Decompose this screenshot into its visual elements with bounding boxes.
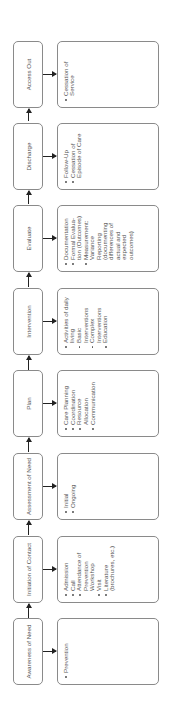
detail-item: Basic Interventions	[76, 292, 89, 348]
stage-label: Intervention	[25, 305, 32, 337]
detail-box-assessment-of-need: Initial Ongoing	[57, 453, 159, 520]
detail-item: Cessation of Service	[63, 45, 76, 101]
arrow-right-icon	[28, 604, 29, 618]
arrow-down-icon	[43, 156, 56, 157]
stage-label: Initiation of Contact	[25, 543, 32, 596]
arrow-right-icon	[28, 521, 29, 535]
detail-item: Ongoing	[70, 457, 76, 513]
stage-box-assessment-of-need: Assessment of Need	[13, 453, 43, 520]
arrow-right-icon	[28, 438, 29, 452]
stage-label: Evaluate	[25, 226, 32, 250]
detail-item: Activities of daily living	[63, 292, 76, 348]
arrow-down-icon	[43, 403, 56, 404]
detail-box-plan: Care Planning Coordination Resource Allo…	[57, 370, 159, 437]
arrow-down-icon	[43, 74, 56, 75]
detail-item: Attendance of Prevention Workshop	[76, 540, 95, 596]
detail-item: Literature (brochures, etc.)	[103, 540, 116, 596]
arrow-down-icon	[43, 486, 56, 487]
care-process-flowchart: Awareness of Need Prevention Initiation …	[0, 0, 170, 724]
stage-label: Discharge	[25, 143, 32, 171]
arrow-right-icon	[28, 356, 29, 370]
arrow-down-icon	[43, 321, 56, 322]
stage-box-plan: Plan	[13, 370, 43, 437]
detail-box-intervention: Activities of daily living Basic Interve…	[57, 288, 159, 355]
detail-box-discharge: Follow-Up Cessation of Episode of Care	[57, 123, 159, 190]
stage-label: Plan	[25, 397, 32, 409]
detail-box-evaluate: Documentation Formal Evalua-tion (Outcom…	[57, 205, 159, 272]
stage-box-access-out: Access Out	[13, 41, 43, 108]
stage-label: Awareness of Need	[25, 625, 32, 679]
detail-box-awareness-of-need: Prevention	[57, 618, 159, 685]
detail-item: Resource Allocation	[76, 374, 89, 430]
arrow-right-icon	[28, 109, 29, 121]
arrow-right-icon	[28, 273, 29, 287]
stage-label: Access Out	[25, 59, 32, 91]
detail-box-initiation-of-contact: Admission Call Attendance of Prevention …	[57, 536, 159, 603]
stage-label: Assessment of Need	[25, 458, 32, 515]
detail-item: Formal Evalua-tion (Outcomes)	[70, 209, 83, 265]
detail-item: Education	[102, 292, 108, 348]
detail-item: Cessation of Episode of Care	[70, 127, 83, 183]
detail-item: Complex Interventions	[89, 292, 102, 348]
stage-box-intervention: Intervention	[13, 288, 43, 355]
stage-box-discharge: Discharge	[13, 123, 43, 190]
stage-box-evaluate: Evaluate	[13, 205, 43, 272]
detail-item: Measurement: Variance Reporting (documen…	[83, 209, 134, 265]
stage-box-initiation-of-contact: Initiation of Contact	[13, 536, 43, 603]
detail-box-access-out: Cessation of Service	[57, 41, 159, 108]
detail-item: Communication	[90, 374, 96, 430]
arrow-right-icon	[28, 191, 29, 204]
detail-item: Prevention	[63, 622, 69, 678]
stage-box-awareness-of-need: Awareness of Need	[13, 618, 43, 685]
arrow-down-icon	[43, 569, 56, 570]
arrow-down-icon	[43, 651, 56, 652]
arrow-down-icon	[43, 238, 56, 239]
